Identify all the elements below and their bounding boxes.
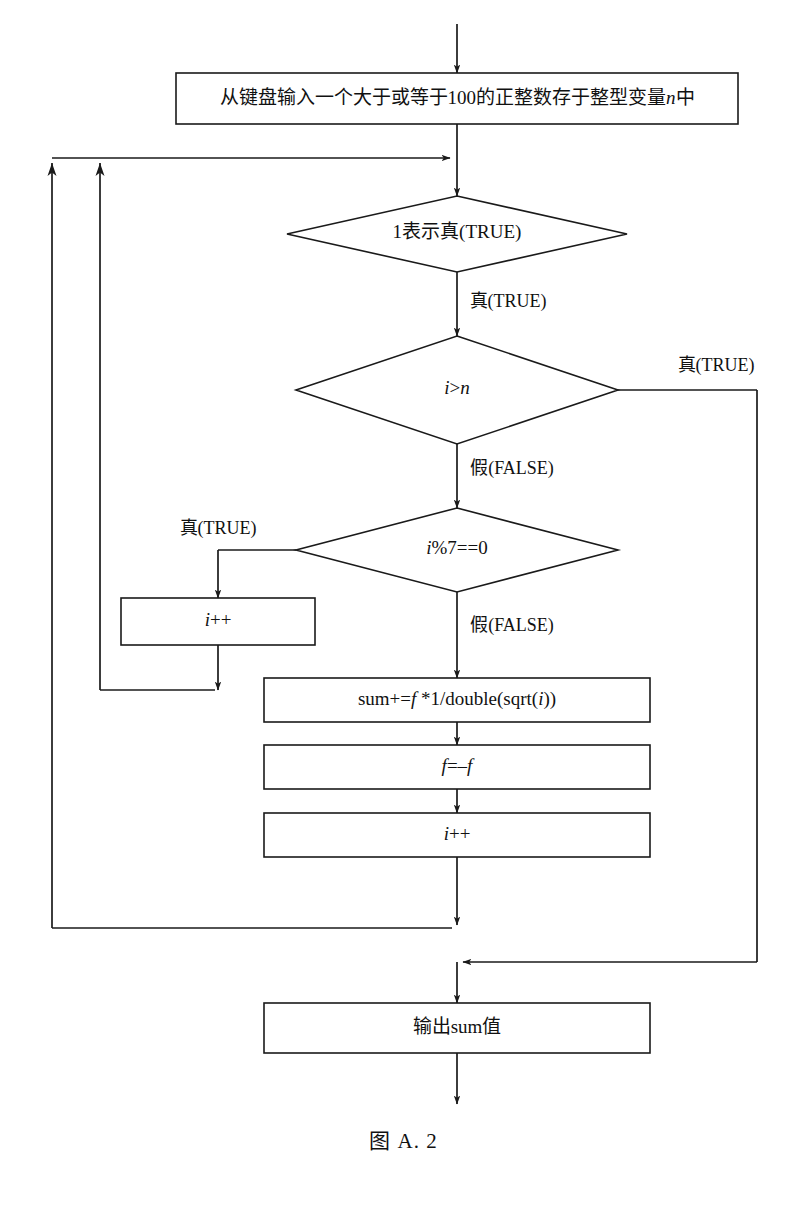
node-sum-accumulate-label: sum+=f *1/double(sqrt(i)) — [358, 688, 556, 710]
node-decision-mod7-label: i%7==0 — [426, 537, 488, 558]
flowchart-page: 从键盘输入一个大于或等于100的正整数存于整型变量n中 1表示真(TRUE) i… — [0, 0, 807, 1212]
figure-caption: 图 A. 2 — [0, 1124, 807, 1154]
edge-label-true-cond3: 真(TRUE) — [180, 518, 257, 539]
node-increment-main-label: i++ — [444, 823, 471, 844]
node-output-box-label: 输出sum值 — [413, 1016, 502, 1037]
edge-label-true-cond2: 真(TRUE) — [678, 355, 755, 376]
edge-label-false-cond2: 假(FALSE) — [470, 458, 554, 479]
edge-label-true-cond1: 真(TRUE) — [470, 291, 547, 312]
node-decision-true-label: 1表示真(TRUE) — [393, 221, 522, 243]
flowchart-diagram: 从键盘输入一个大于或等于100的正整数存于整型变量n中 1表示真(TRUE) i… — [0, 0, 807, 1212]
node-increment-left-label: i++ — [205, 609, 232, 630]
node-flip-sign-label: f=–f — [442, 755, 476, 776]
node-decision-i-gt-n-label: i>n — [444, 377, 470, 398]
edge-label-false-cond3: 假(FALSE) — [470, 615, 554, 636]
node-input-box-label: 从键盘输入一个大于或等于100的正整数存于整型变量n中 — [220, 87, 695, 108]
